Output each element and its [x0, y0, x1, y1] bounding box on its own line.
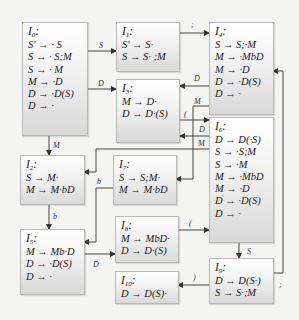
lr-item: M → Mb·D	[26, 246, 84, 258]
state-title: I0:	[28, 25, 87, 39]
state-title: I8:	[121, 219, 178, 233]
edge-label-I6-I9: S	[247, 247, 251, 256]
state-I8: I8: M → MbD· D → D·(S)	[115, 216, 179, 263]
state-title: I7:	[119, 158, 176, 172]
lr-item: D → D(S)·	[121, 288, 178, 300]
lr-item: S → M·	[26, 172, 84, 184]
state-title: I3:	[122, 82, 179, 96]
lr-item: M → MbD·	[121, 233, 178, 245]
edge-label-I0-I1: S	[99, 41, 103, 50]
state-title: I10:	[121, 274, 178, 288]
lr-item: M → ·MbD	[215, 51, 273, 63]
edge-label-I7-I5: b	[97, 177, 101, 186]
state-title: I2:	[26, 158, 84, 172]
lr-item: M → ·MbD	[215, 171, 273, 183]
edge-label-I6-I2: M	[198, 139, 205, 148]
edge-label-I4-I3: D	[194, 74, 200, 83]
lr-item: S → S;M·	[119, 172, 176, 184]
lr-item: M → ·D	[28, 76, 87, 88]
state-title: I5:	[26, 232, 84, 246]
lr-item: D → D·(S)	[121, 245, 178, 257]
lr-item: D → ·D(S)	[215, 76, 273, 88]
lr-item: D → D(S·)	[215, 275, 273, 287]
lr-item: S → S· ;M	[122, 51, 179, 63]
lr-item: S → ·S;M	[215, 146, 273, 158]
state-I9: I9: D → D(S·) S → S·;M	[209, 258, 274, 304]
lr-item: S' → · S	[28, 39, 87, 51]
state-I5: I5: M → Mb·D D → ·D(S) D → ·	[20, 229, 85, 295]
state-I6: I6: D → D(·S) S → ·S;M S → ·M M → ·MbD M…	[209, 117, 274, 243]
lr0-automaton-diagram: S D M ; D M ( D M b b D ( S ) ; I0: S' →…	[0, 0, 299, 320]
lr-item: S → · M	[28, 64, 87, 76]
state-I4: I4: S → S;·M M → ·MbD M → ·D D → ·D(S) D…	[209, 22, 274, 115]
lr-item: D → D(·S)	[215, 134, 273, 146]
state-I10: I10: D → D(S)·	[115, 271, 179, 304]
state-title: I4:	[215, 25, 273, 39]
state-title: I1:	[122, 25, 179, 39]
lr-item: S → ·M	[215, 159, 273, 171]
state-title: I9:	[215, 261, 273, 275]
state-I1: I1: S' → S· S → S· ;M	[116, 22, 180, 72]
edge-label-I5-I8: D	[93, 260, 99, 269]
edge-label-I8-I6: (	[189, 219, 192, 228]
lr-item: D → ·	[28, 100, 87, 112]
edge-label-I4-I7: M	[194, 97, 201, 106]
state-I3: I3: M → D· D → D·(S)	[116, 79, 180, 143]
lr-item: D → ·	[215, 88, 273, 100]
lr-item: M → M·bD	[26, 184, 84, 196]
state-I2: I2: S → M· M → M·bD	[20, 155, 85, 205]
lr-item: S' → S·	[122, 39, 179, 51]
edge-label-I3-I6: (	[184, 110, 187, 119]
lr-item: D → ·	[26, 271, 84, 283]
lr-item: D → D·(S)	[122, 108, 179, 120]
edge-label-I1-I4: ;	[191, 20, 194, 29]
lr-item: M → D·	[122, 96, 179, 108]
edge-label-I2-I5: b	[53, 212, 57, 221]
lr-item: M → M·bD	[119, 184, 176, 196]
lr-item: S → · S;M	[28, 51, 87, 63]
edge-label-I0-I2: M	[53, 141, 60, 150]
lr-item: D → ·	[215, 208, 273, 220]
edge-label-I0-I3: D	[98, 79, 104, 88]
edge-label-I9-I10: )	[193, 273, 196, 282]
lr-item: M → ·D	[215, 183, 273, 195]
state-title: I6:	[215, 120, 273, 134]
lr-item: S → S;·M	[215, 39, 273, 51]
lr-item: M → ·D	[215, 64, 273, 76]
lr-item: D → ·D(S)	[28, 88, 87, 100]
state-I0: I0: S' → · S S → · S;M S → · M M → ·D D …	[22, 22, 88, 136]
state-I7: I7: S → S;M· M → M·bD	[113, 155, 177, 205]
edge-label-I6-I3: D	[199, 125, 205, 134]
edge-label-I9-I4: ;	[279, 280, 282, 289]
lr-item: D → ·D(S)	[215, 195, 273, 207]
lr-item: D → ·D(S)	[26, 258, 84, 270]
lr-item: S → S·;M	[215, 287, 273, 299]
